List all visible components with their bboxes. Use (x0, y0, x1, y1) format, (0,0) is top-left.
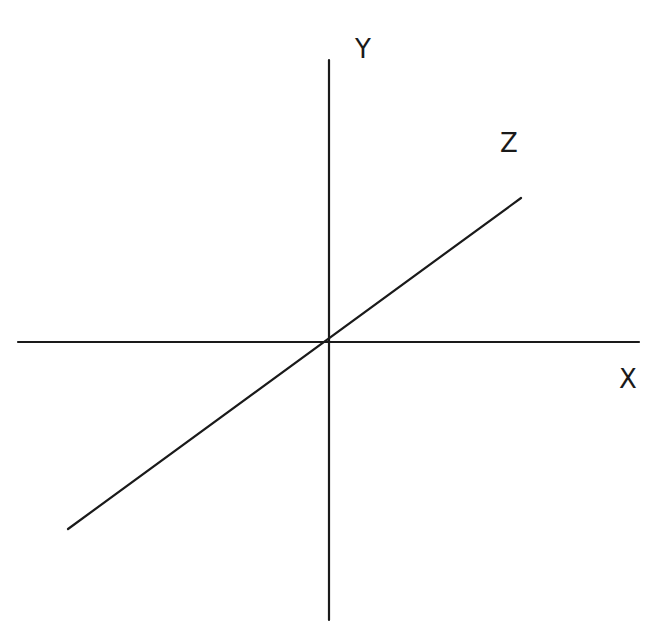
z-axis-line (68, 198, 521, 529)
coordinate-axes-diagram: X Y Z (0, 0, 656, 636)
x-axis-label: X (619, 364, 637, 394)
z-axis-label: Z (500, 128, 518, 158)
y-axis-label: Y (354, 34, 371, 64)
